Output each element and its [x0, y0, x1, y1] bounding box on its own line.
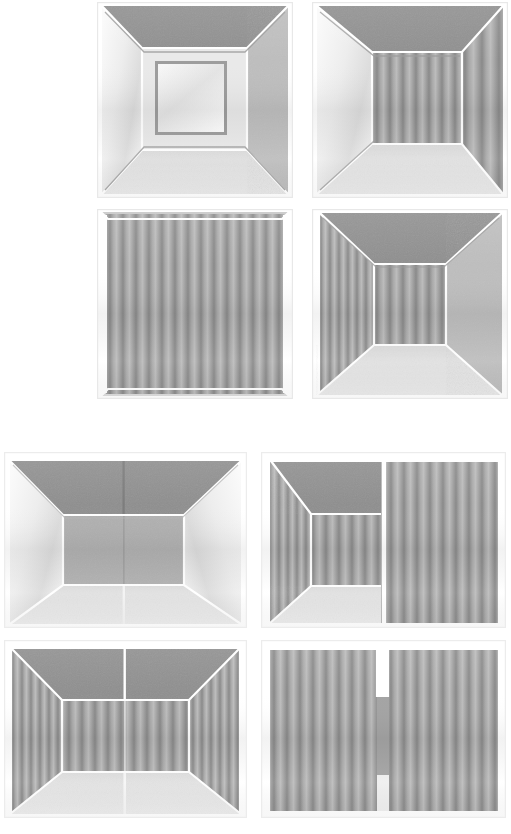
panel-7 [4, 640, 247, 818]
panel-8 [261, 640, 506, 818]
panel-6 [261, 452, 506, 628]
render-banding [312, 209, 508, 399]
panel-3 [97, 209, 293, 399]
panel-1-render [97, 2, 293, 198]
render-banding [261, 640, 506, 818]
panel-5 [4, 452, 247, 628]
panel-4-render [312, 209, 508, 399]
panel-8-render [261, 640, 506, 818]
render-banding [312, 2, 508, 198]
figure-root [0, 0, 511, 834]
panel-2-render [312, 2, 508, 198]
render-banding [4, 452, 247, 628]
panel-1 [97, 2, 293, 198]
panel-3-render [97, 209, 293, 399]
render-banding [97, 2, 293, 198]
panel-2 [312, 2, 508, 198]
panel-4 [312, 209, 508, 399]
render-banding [97, 209, 293, 399]
panel-5-render [4, 452, 247, 628]
render-banding [261, 452, 506, 628]
panel-6-render [261, 452, 506, 628]
render-banding [4, 640, 247, 818]
panel-7-render [4, 640, 247, 818]
